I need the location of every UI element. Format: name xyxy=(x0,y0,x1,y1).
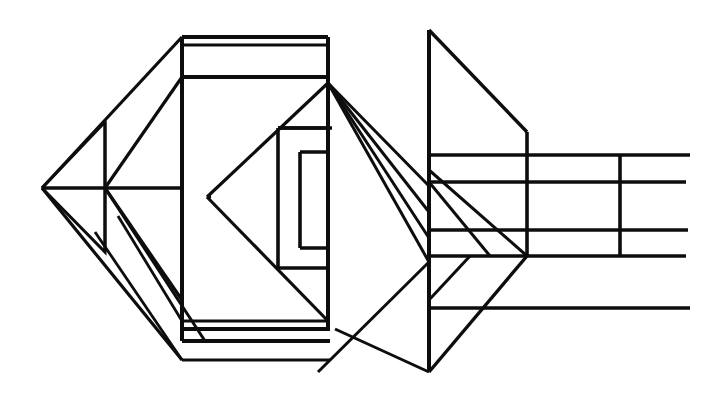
drawing-canvas xyxy=(0,0,718,413)
wireframe-figure xyxy=(0,0,718,413)
canvas-background xyxy=(0,0,718,413)
